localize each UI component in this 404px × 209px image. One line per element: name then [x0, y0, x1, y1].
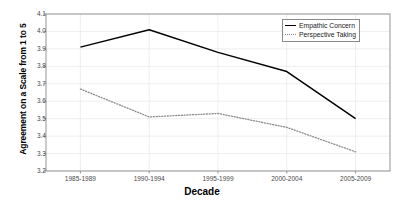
x-tick-label: 2005-2009: [316, 175, 396, 182]
legend-item[interactable]: Perspective Taking: [285, 30, 356, 39]
legend-item-label: Empathic Concern: [299, 21, 355, 30]
y-axis-title: Agreement on a Scale from 1 to 5: [18, 4, 28, 174]
legend-item[interactable]: Empathic Concern: [285, 21, 356, 30]
legend-item-label: Perspective Taking: [299, 30, 356, 39]
chart-figure: 3.23.33.43.53.63.73.83.94.04.1 1985-1989…: [0, 0, 404, 209]
legend-line-swatch-icon: [285, 31, 296, 38]
x-axis-title: Decade: [0, 186, 404, 197]
legend-line-swatch-icon: [285, 22, 296, 29]
chart-legend: Empathic ConcernPerspective Taking: [282, 19, 360, 42]
